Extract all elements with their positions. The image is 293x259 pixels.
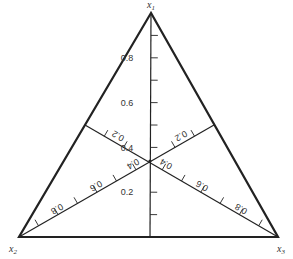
- x1-tick-label: 0.2: [121, 187, 134, 197]
- tick-mark: [220, 197, 224, 203]
- tick-mark: [172, 141, 175, 147]
- x2-tick-label: 0.8: [49, 202, 65, 217]
- vertex-label-x2: x2: [8, 243, 17, 256]
- axis-ticks: [35, 35, 262, 225]
- tick-mark: [191, 130, 194, 136]
- x2-tick-label: 0.6: [88, 179, 104, 194]
- x3-tick-label: 0.6: [194, 179, 210, 194]
- vertex-label-x3: x3: [276, 243, 285, 256]
- x1-tick-label: 0.4: [121, 143, 134, 153]
- tick-mark: [182, 175, 186, 181]
- x2-tick-label: 0.4: [125, 157, 141, 172]
- tick-mark: [113, 175, 116, 181]
- vertex-label-x1: x1: [146, 0, 155, 12]
- tick-mark: [74, 197, 77, 203]
- tick-mark: [259, 220, 263, 226]
- tick-mark: [35, 220, 38, 226]
- centroid-point: [148, 159, 151, 162]
- x3-tick-label: 0.8: [233, 202, 249, 217]
- x1-tick-label: 0.6: [121, 98, 134, 108]
- ternary-diagram: 0.20.40.60.80.20.40.60.80.20.40.60.8 x1x…: [0, 0, 293, 259]
- tick-mark: [104, 130, 108, 136]
- x1-tick-label: 0.8: [121, 53, 134, 63]
